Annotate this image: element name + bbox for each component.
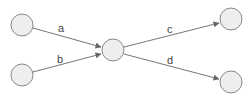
node-hub (102, 39, 124, 61)
graph-diagram: a b c d (0, 0, 251, 103)
edge-b (33, 54, 101, 72)
node-bottom-right (220, 71, 242, 93)
edge-label-b: b (57, 53, 63, 65)
edge-label-d: d (167, 54, 173, 66)
node-top-left (11, 14, 33, 36)
node-top-right (220, 8, 242, 30)
node-bottom-left (11, 64, 33, 86)
edge-label-a: a (58, 22, 65, 34)
edge-a (33, 28, 101, 47)
edge-label-c: c (167, 23, 173, 35)
